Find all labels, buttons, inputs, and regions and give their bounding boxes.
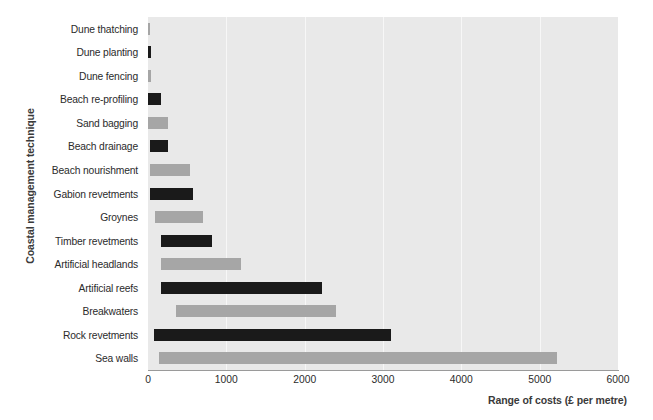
category-label: Dune thatching (0, 23, 138, 34)
bar (150, 140, 167, 152)
gridline (383, 17, 384, 370)
bar (161, 282, 322, 294)
x-tick-label: 5000 (528, 374, 551, 385)
x-tick-label: 3000 (372, 374, 395, 385)
category-label: Beach re-profiling (0, 94, 138, 105)
x-tick-label: 1000 (215, 374, 238, 385)
category-label: Artificial reefs (0, 282, 138, 293)
category-label: Dune fencing (0, 70, 138, 81)
bar (148, 70, 151, 82)
bar (176, 305, 336, 317)
category-label: Sea walls (0, 353, 138, 364)
x-tick-label: 6000 (607, 374, 630, 385)
bar (148, 46, 151, 58)
category-label: Groynes (0, 212, 138, 223)
bar (154, 329, 391, 341)
category-label: Rock revetments (0, 329, 138, 340)
category-label: Sand bagging (0, 117, 138, 128)
bar (148, 23, 150, 35)
bar (161, 235, 212, 247)
bar (159, 352, 557, 364)
bar (148, 93, 161, 105)
category-label: Gabion revetments (0, 188, 138, 199)
x-axis-title: Range of costs (£ per metre) (488, 394, 627, 406)
bar (150, 164, 190, 176)
category-label: Beach nourishment (0, 164, 138, 175)
bar (161, 258, 241, 270)
category-label: Artificial headlands (0, 259, 138, 270)
bar-chart: Coastal management technique Dune thatch… (0, 0, 653, 420)
gridline (540, 17, 541, 370)
x-tick-label: 4000 (450, 374, 473, 385)
bar (150, 188, 194, 200)
x-tick-label: 2000 (293, 374, 316, 385)
category-axis: Dune thatchingDune plantingDune fencingB… (30, 17, 142, 370)
category-label: Dune planting (0, 47, 138, 58)
gridline (461, 17, 462, 370)
bar (155, 211, 203, 223)
plot-area (148, 17, 618, 370)
category-label: Timber revetments (0, 235, 138, 246)
x-tick-label: 0 (145, 374, 151, 385)
bar (148, 117, 168, 129)
category-label: Beach drainage (0, 141, 138, 152)
x-axis-line (148, 370, 619, 371)
category-label: Breakwaters (0, 306, 138, 317)
